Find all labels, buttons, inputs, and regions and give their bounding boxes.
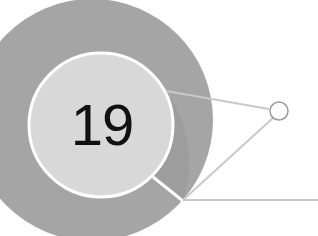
step-number: 19	[29, 52, 175, 198]
diagram: 19	[0, 0, 318, 236]
node-circle	[270, 102, 288, 120]
